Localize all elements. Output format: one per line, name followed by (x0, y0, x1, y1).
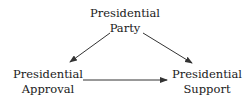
node-presidential-support: Presidential Support (162, 67, 250, 97)
node-label-line1: Presidential (80, 6, 170, 21)
node-label-line1: Presidential (162, 67, 250, 82)
node-label-line2: Approval (3, 82, 93, 97)
node-label-line2: Party (80, 21, 170, 36)
arrow-party-to-approval (70, 33, 110, 62)
node-presidential-approval: Presidential Approval (3, 67, 93, 97)
arrow-party-to-support (143, 33, 192, 63)
node-presidential-party: Presidential Party (80, 6, 170, 36)
node-label-line2: Support (162, 82, 250, 97)
node-label-line1: Presidential (3, 67, 93, 82)
